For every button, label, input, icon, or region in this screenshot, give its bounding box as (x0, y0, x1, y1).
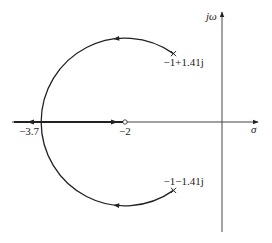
real-branch-right-arrow (111, 119, 118, 124)
zero-marker (123, 120, 127, 124)
pole-label-lower: −1−1.41j (164, 175, 204, 187)
upper-locus-branch (41, 38, 173, 122)
lower-locus-branch (41, 122, 173, 206)
pole-label-upper: −1+1.41j (164, 56, 204, 68)
root-locus-diagram: σ jω −1+1.41j −1−1.41j −2 −3.7 (0, 0, 272, 243)
real-axis-label: σ (251, 123, 257, 135)
breakaway-point-label: −3.7 (19, 125, 39, 137)
imaginary-axis-label: jω (204, 10, 217, 22)
real-branch-left-arrow (27, 119, 34, 124)
pole-marker (171, 188, 176, 193)
zero-label: −2 (119, 125, 131, 137)
